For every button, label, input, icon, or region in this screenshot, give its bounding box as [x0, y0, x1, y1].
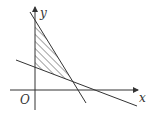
origin-label: O — [20, 93, 30, 107]
diagram: y x O — [0, 0, 150, 133]
coordinate-plot: y x O — [0, 0, 150, 133]
x-axis-label: x — [139, 91, 146, 105]
shallow-line — [16, 60, 137, 106]
y-axis-label: y — [39, 6, 47, 20]
